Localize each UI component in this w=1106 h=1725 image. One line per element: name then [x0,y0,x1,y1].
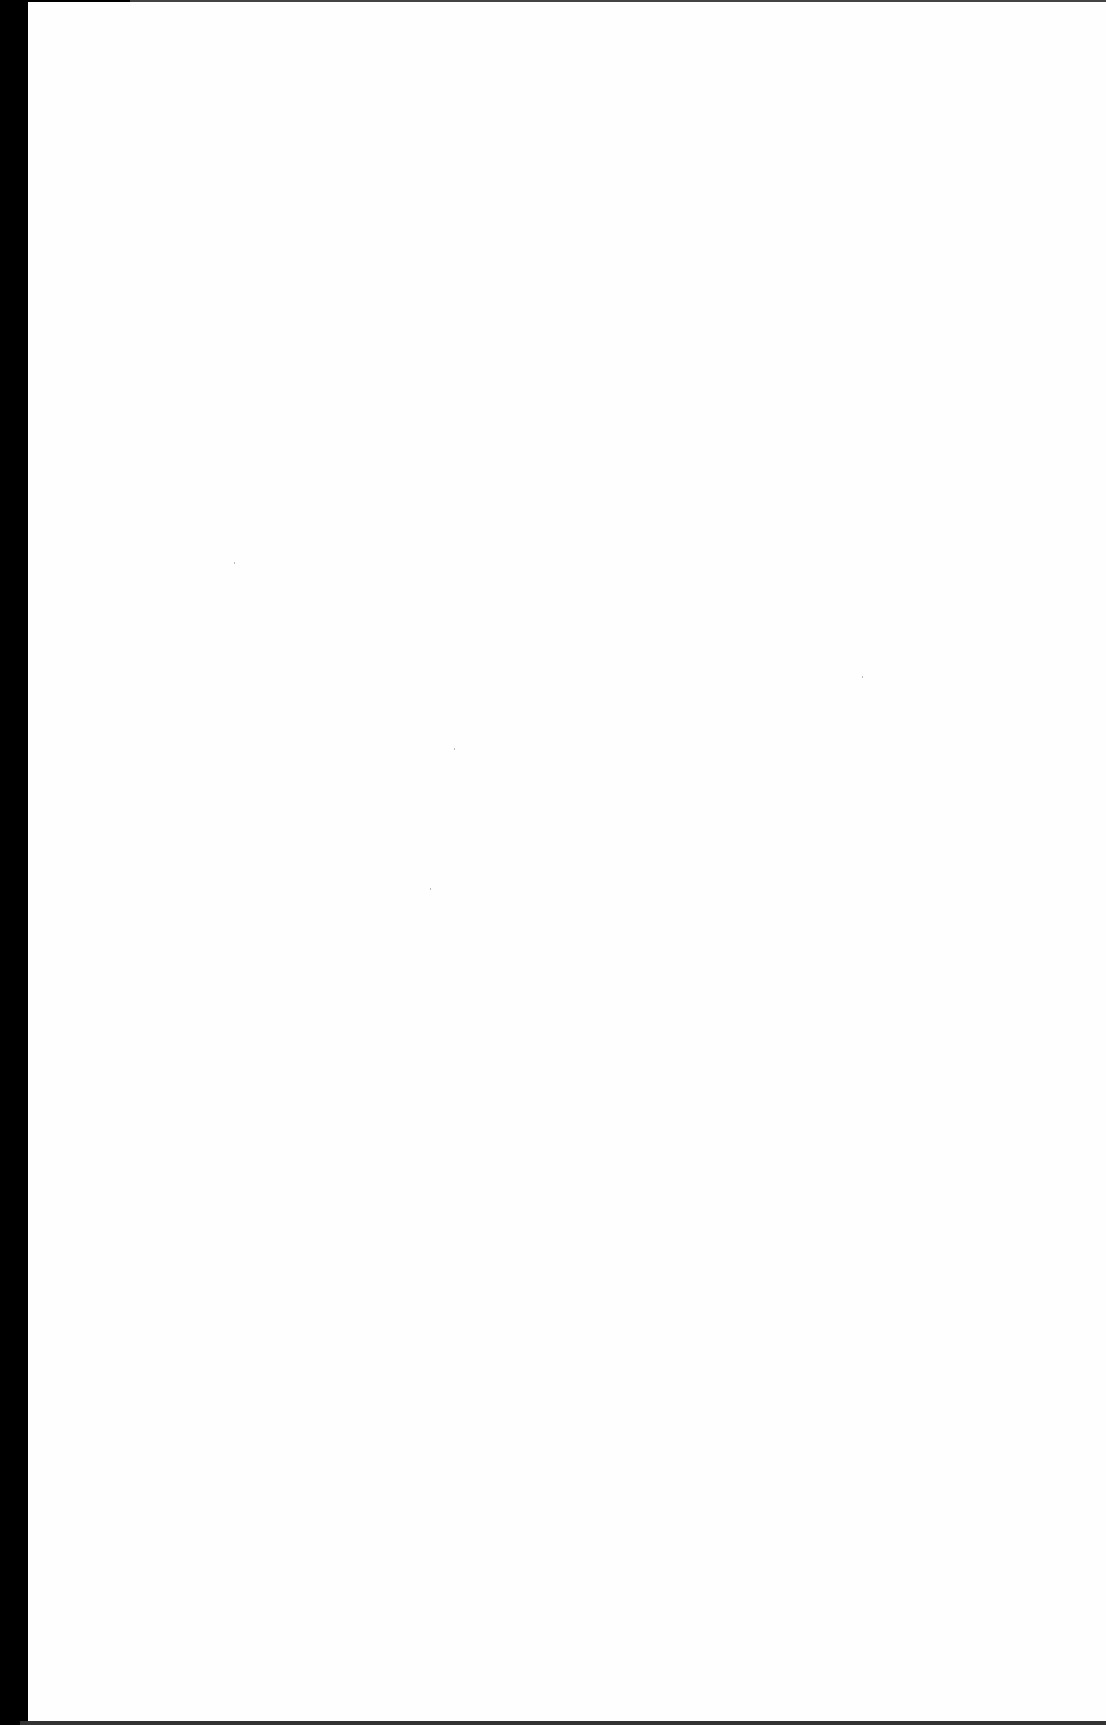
scan-left-edge [0,0,30,1725]
scan-bottom-edge [20,1721,1106,1725]
scan-speck [454,748,455,750]
scan-speck [234,562,235,564]
scan-speck [862,676,863,678]
scan-speck [430,888,431,890]
blank-page [28,2,1106,1721]
scan-top-edge [130,0,1106,2]
